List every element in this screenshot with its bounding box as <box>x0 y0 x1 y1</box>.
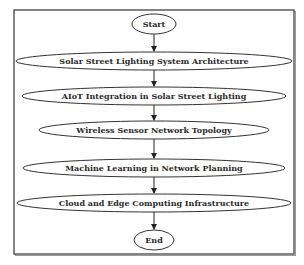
cloud-edge-label: Cloud and Edge Computing Infrastructure <box>59 198 249 208</box>
wireless-sensor-label: Wireless Sensor Network Topology <box>75 125 232 135</box>
solar-architecture-label: Solar Street Lighting System Architectur… <box>59 56 248 66</box>
node-machine-learning: Machine Learning in Network Planning <box>23 159 285 177</box>
end-label: End <box>145 235 163 245</box>
node-solar-street-lighting-architecture: Solar Street Lighting System Architectur… <box>16 52 292 70</box>
node-end: End <box>134 230 174 250</box>
node-aiot-integration: AIoT Integration in Solar Street Lightin… <box>22 87 286 105</box>
node-wireless-sensor-network: Wireless Sensor Network Topology <box>39 121 269 139</box>
start-label: Start <box>143 19 166 29</box>
flowchart: Start Solar Street Lighting System Archi… <box>0 0 304 265</box>
node-start: Start <box>132 14 176 34</box>
node-cloud-edge-computing: Cloud and Edge Computing Infrastructure <box>17 194 291 212</box>
aiot-integration-label: AIoT Integration in Solar Street Lightin… <box>61 91 247 101</box>
machine-learning-label: Machine Learning in Network Planning <box>65 163 243 173</box>
